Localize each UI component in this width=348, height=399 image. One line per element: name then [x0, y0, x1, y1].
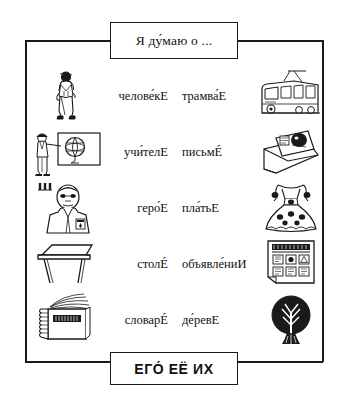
- worksheet-sheet: Я ду́маю о ... челове́кЕ: [0, 0, 348, 399]
- header-prompt-text: Я ду́маю о ...: [136, 33, 213, 49]
- header-prompt-box: Я ду́маю о ...: [110, 22, 238, 59]
- word-pair: столÉ объявле́ниИ: [102, 257, 254, 272]
- word-pair: словарÉ де́ревЕ: [102, 313, 254, 328]
- dress-icon: [254, 181, 328, 235]
- word-pair: геро́Е пла́тьЕ: [102, 201, 254, 216]
- frame-top-right: [238, 40, 323, 42]
- table-row: столÉ объявле́ниИ: [28, 236, 320, 292]
- word-right: письмÉ: [182, 145, 254, 160]
- footer-pronouns-box: ЕГО́ ЕЁ ИХ: [110, 352, 238, 385]
- tree-icon: [254, 293, 328, 347]
- dictionary-book-icon: [28, 293, 102, 347]
- envelope-letter-icon: [254, 125, 328, 179]
- table-row: геро́Е пла́тьЕ: [28, 180, 320, 236]
- table-row: челове́кЕ трамва́Е: [28, 68, 320, 124]
- frame-bottom-right: [238, 361, 323, 363]
- teacher-at-blackboard-icon: [28, 125, 102, 179]
- frame-top-left: [25, 40, 110, 42]
- word-left: геро́Е: [102, 201, 168, 216]
- tram-icon: [254, 69, 328, 123]
- word-left: столÉ: [102, 257, 168, 272]
- table-row: учи́телЕ письмÉ: [28, 124, 320, 180]
- table-row: словарÉ де́ревЕ: [28, 292, 320, 348]
- word-left: челове́кЕ: [102, 89, 168, 104]
- word-right: де́ревЕ: [182, 313, 254, 328]
- word-pair: учи́телЕ письмÉ: [102, 145, 254, 160]
- word-right: объявле́ниИ: [182, 257, 254, 272]
- word-left: словарÉ: [102, 313, 168, 328]
- word-right: трамва́Е: [182, 89, 254, 104]
- frame-bottom-left: [25, 361, 110, 363]
- word-pair: челове́кЕ трамва́Е: [102, 89, 254, 104]
- footer-pronouns-text: ЕГО́ ЕЁ ИХ: [134, 361, 213, 377]
- man-standing-icon: [28, 69, 102, 123]
- word-left: учи́телЕ: [102, 145, 168, 160]
- frame-left-edge: [25, 40, 27, 362]
- hero-with-medal-icon: [28, 181, 102, 235]
- word-right: пла́тьЕ: [182, 201, 254, 216]
- table-icon: [28, 237, 102, 291]
- notice-board-icon: [254, 237, 328, 291]
